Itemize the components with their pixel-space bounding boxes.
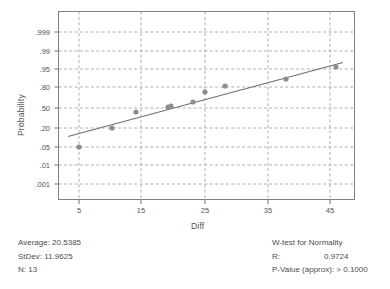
- stat-r-value: 0.9724: [324, 250, 348, 264]
- stat-stdev-label: StDev:: [18, 250, 42, 264]
- stat-n-label: N:: [18, 263, 26, 277]
- y-tick-label-80: .80: [22, 83, 50, 92]
- y-tick-label-95: .95: [22, 65, 50, 74]
- x-tick-label-45: 45: [317, 206, 343, 215]
- data-point: [333, 64, 338, 69]
- y-tick-label-99: .99: [22, 47, 50, 56]
- stat-average-value: 20.5385: [52, 236, 81, 250]
- stat-stdev-value: 11.9625: [44, 250, 72, 264]
- y-tick-label-50: .50: [22, 104, 50, 113]
- stat-n-value: 13: [28, 263, 37, 277]
- vertical-gridlines: [79, 12, 330, 200]
- y-axis-title-text: Probability: [16, 94, 26, 136]
- data-point: [168, 103, 173, 108]
- summary-statistics: Average: 20.5385 StDev: 11.9625 N: 13: [18, 236, 81, 277]
- x-tick-label-5: 5: [66, 206, 92, 215]
- x-axis-title: Diff: [191, 221, 204, 231]
- y-tick-label-999: .999: [22, 28, 50, 37]
- stat-n: N: 13: [18, 263, 81, 277]
- normality-test-results: W-test for Normality R:0.9724 P-Value (a…: [272, 236, 368, 277]
- data-point: [222, 83, 227, 88]
- data-point: [109, 125, 114, 130]
- x-axis-ticks: [79, 200, 330, 205]
- horizontal-gridlines: [59, 32, 355, 184]
- stat-average: Average: 20.5385: [18, 236, 81, 250]
- y-tick-label-001: .001: [22, 180, 50, 189]
- data-point: [202, 89, 207, 94]
- stat-r-label: R:: [272, 250, 324, 264]
- data-point: [133, 109, 138, 114]
- data-point: [76, 144, 81, 149]
- x-tick-label-35: 35: [255, 206, 281, 215]
- normality-test-title: W-test for Normality: [272, 236, 368, 250]
- normal-probability-plot-figure: .999 .99 .95 .80 .50 .20 .05 .01 .001 5 …: [0, 0, 390, 289]
- normality-fit-line: [68, 63, 343, 137]
- plot-frame: [59, 12, 355, 200]
- stat-pvalue-value: > 0.1000: [336, 263, 367, 277]
- data-points: [76, 64, 338, 149]
- stat-pvalue: P-Value (approx): > 0.1000: [272, 263, 368, 277]
- y-axis-title: Probability: [6, 32, 16, 74]
- stat-pvalue-label: P-Value (approx):: [272, 263, 334, 277]
- y-tick-label-20: .20: [22, 124, 50, 133]
- data-point: [190, 99, 195, 104]
- x-tick-label-15: 15: [128, 206, 154, 215]
- stat-stdev: StDev: 11.9625: [18, 250, 81, 264]
- stat-average-label: Average:: [18, 236, 50, 250]
- y-tick-label-01: .01: [22, 161, 50, 170]
- x-tick-label-25: 25: [192, 206, 218, 215]
- stat-r: R:0.9724: [272, 250, 368, 264]
- data-point: [283, 76, 288, 81]
- y-tick-label-05: .05: [22, 143, 50, 152]
- y-axis-ticks: [55, 32, 59, 184]
